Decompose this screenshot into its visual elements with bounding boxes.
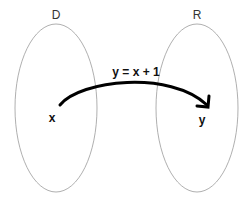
domain-set-label: D — [52, 8, 61, 22]
range-set-label: R — [193, 8, 202, 22]
range-element-label: y — [199, 113, 206, 127]
function-mapping-diagram: D x R y y = x + 1 — [0, 0, 249, 206]
range-set-ellipse — [156, 24, 238, 192]
mapping-function-label: y = x + 1 — [112, 65, 160, 79]
domain-element-label: x — [49, 111, 56, 125]
mapping-arrow: y = x + 1 — [60, 65, 209, 107]
domain-set-ellipse — [15, 24, 97, 192]
mapping-arrow-curve — [60, 82, 207, 105]
range-set: R y — [156, 8, 238, 192]
domain-set: D x — [15, 8, 97, 192]
